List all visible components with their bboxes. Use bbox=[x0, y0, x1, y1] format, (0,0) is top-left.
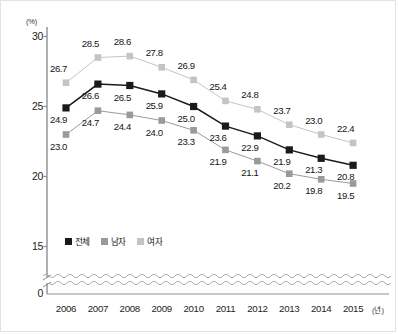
data-label-female-2009: 27.8 bbox=[139, 47, 169, 58]
chart-plot-area bbox=[1, 1, 397, 333]
data-label-female-2007: 28.5 bbox=[75, 38, 105, 49]
legend-swatch-icon bbox=[101, 238, 108, 245]
data-label-total-2014: 21.3 bbox=[299, 164, 329, 175]
data-point-marker bbox=[222, 123, 229, 130]
y-tick-label-30: 30 bbox=[21, 30, 43, 42]
data-point-marker bbox=[158, 117, 165, 124]
data-point-marker bbox=[350, 162, 357, 169]
data-point-marker bbox=[127, 112, 134, 119]
data-label-total-2006: 24.9 bbox=[44, 114, 74, 125]
data-point-marker bbox=[350, 140, 357, 147]
x-tick-label-2013: 2013 bbox=[272, 303, 306, 314]
data-point-marker bbox=[158, 64, 165, 71]
y-tick-label-20: 20 bbox=[21, 170, 43, 182]
data-point-marker bbox=[63, 131, 70, 138]
data-label-male-2009: 24.0 bbox=[139, 127, 169, 138]
data-point-marker bbox=[190, 103, 197, 110]
data-label-total-2013: 21.9 bbox=[267, 156, 297, 167]
data-label-total-2007: 26.6 bbox=[75, 90, 105, 101]
data-label-male-2014: 19.8 bbox=[299, 185, 329, 196]
legend-swatch-icon bbox=[65, 238, 72, 245]
data-point-marker bbox=[190, 77, 197, 84]
legend-swatch-icon bbox=[137, 238, 144, 245]
data-point-marker bbox=[286, 121, 293, 128]
data-point-marker bbox=[94, 81, 101, 88]
data-label-male-2012: 21.1 bbox=[235, 167, 265, 178]
data-point-marker bbox=[286, 146, 293, 153]
data-point-marker bbox=[222, 147, 229, 154]
data-point-marker bbox=[318, 176, 325, 183]
y-tick-label-15: 15 bbox=[21, 240, 43, 252]
legend-item-여자: 여자 bbox=[137, 235, 162, 247]
x-tick-label-2007: 2007 bbox=[81, 303, 115, 314]
chart-svg bbox=[1, 1, 397, 333]
legend-label: 여자 bbox=[147, 235, 163, 247]
data-label-total-2015: 20.8 bbox=[331, 171, 361, 182]
data-label-total-2009: 25.9 bbox=[139, 100, 169, 111]
x-tick-label-2012: 2012 bbox=[240, 303, 274, 314]
data-point-marker bbox=[158, 90, 165, 97]
y-tick-label-25: 25 bbox=[21, 100, 43, 112]
data-point-marker bbox=[318, 131, 325, 138]
legend-item-남자: 남자 bbox=[101, 235, 126, 247]
data-point-marker bbox=[95, 54, 102, 61]
data-label-female-2011: 25.4 bbox=[203, 81, 233, 92]
x-tick-label-2006: 2006 bbox=[49, 303, 83, 314]
data-label-male-2011: 21.9 bbox=[203, 156, 233, 167]
chart-figure: (%) 30 25 20 15 0 2006200720082009201020… bbox=[0, 0, 396, 332]
data-point-marker bbox=[286, 170, 293, 177]
data-label-male-2008: 24.4 bbox=[107, 121, 137, 132]
data-label-total-2010: 25.0 bbox=[171, 113, 201, 124]
axis-break-wave-top bbox=[43, 274, 391, 277]
y-axis-unit-label: (%) bbox=[26, 17, 37, 26]
data-label-total-2008: 26.5 bbox=[107, 92, 137, 103]
data-point-marker bbox=[95, 107, 102, 114]
data-label-female-2010: 26.9 bbox=[171, 60, 201, 71]
chart-legend: 전체남자여자 bbox=[65, 235, 169, 247]
data-label-male-2013: 20.2 bbox=[267, 180, 297, 191]
data-point-marker bbox=[254, 158, 261, 165]
data-label-female-2014: 23.0 bbox=[299, 115, 329, 126]
x-tick-label-2010: 2010 bbox=[177, 303, 211, 314]
x-tick-label-2015: 2015 bbox=[336, 303, 370, 314]
data-point-marker bbox=[63, 79, 70, 86]
axis-break-wave-bottom bbox=[43, 281, 391, 284]
x-tick-label-2008: 2008 bbox=[113, 303, 147, 314]
legend-label: 남자 bbox=[111, 235, 127, 247]
x-tick-label-2014: 2014 bbox=[304, 303, 338, 314]
data-point-marker bbox=[126, 82, 133, 89]
data-label-male-2006: 23.0 bbox=[44, 141, 74, 152]
data-point-marker bbox=[318, 155, 325, 162]
data-label-total-2011: 23.6 bbox=[203, 132, 233, 143]
legend-item-전체: 전체 bbox=[65, 235, 90, 247]
data-point-marker bbox=[190, 127, 197, 134]
data-label-total-2012: 22.9 bbox=[235, 142, 265, 153]
x-axis-unit-label: (년) bbox=[372, 304, 384, 315]
data-label-male-2007: 24.7 bbox=[75, 117, 105, 128]
data-label-female-2006: 26.7 bbox=[44, 63, 74, 74]
x-tick-label-2011: 2011 bbox=[209, 303, 243, 314]
y-tick-label-0: 0 bbox=[21, 287, 43, 299]
data-label-male-2015: 19.5 bbox=[331, 190, 361, 201]
data-label-female-2008: 28.6 bbox=[107, 36, 137, 47]
data-point-marker bbox=[254, 106, 261, 113]
data-point-marker bbox=[127, 53, 134, 60]
data-point-marker bbox=[62, 104, 69, 111]
data-label-male-2010: 23.3 bbox=[171, 136, 201, 147]
data-point-marker bbox=[222, 98, 229, 105]
data-label-female-2013: 23.7 bbox=[267, 105, 297, 116]
data-point-marker bbox=[254, 132, 261, 139]
legend-label: 전체 bbox=[75, 235, 91, 247]
x-tick-label-2009: 2009 bbox=[145, 303, 179, 314]
data-label-female-2015: 22.4 bbox=[331, 123, 361, 134]
data-label-female-2012: 24.8 bbox=[235, 89, 265, 100]
